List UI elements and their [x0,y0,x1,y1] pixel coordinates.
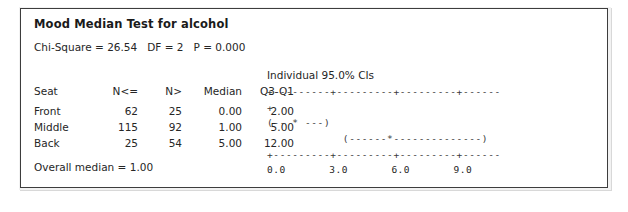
page-title: Mood Median Test for alcohol [34,17,229,31]
output-panel: Mood Median Test for alcohol Chi-Square … [20,8,608,188]
column-header-median: Median [182,85,242,105]
table-row: Front 62 25 0.00 2.00 [34,105,294,121]
ci-axis-bottom: +---------+---------+---------+------ [267,149,501,160]
column-header-seat: Seat [34,85,96,105]
cell-n-le: 25 [96,137,138,153]
ci-interval-front: + [267,102,273,113]
results-table: Seat N<= N> Median Q3-Q1 Front 62 25 0.0… [34,85,294,153]
confidence-interval-plot: Individual 95.0% CIs +---------+--------… [267,69,597,188]
column-header-n-le: N<= [96,85,138,105]
cell-n-gt: 25 [138,105,182,121]
table-row: Back 25 54 5.00 12.00 [34,137,294,153]
cell-n-le: 115 [96,121,138,137]
ci-plot-caption: Individual 95.0% CIs [267,69,374,81]
cell-seat: Middle [34,121,96,137]
table-row: Middle 115 92 1.00 5.00 [34,121,294,137]
cell-n-le: 62 [96,105,138,121]
screenshot-root: Mood Median Test for alcohol Chi-Square … [0,0,628,212]
ci-axis-top: +---------+---------+---------+------ [267,86,501,97]
column-header-n-gt: N> [138,85,182,105]
ci-axis-tick-labels: 0.0 3.0 6.0 9.0 [267,164,472,175]
cell-median: 0.00 [182,105,242,121]
ci-interval-middle: (-- * ---) [267,117,330,128]
cell-n-gt: 92 [138,121,182,137]
output-panel-inner: Mood Median Test for alcohol Chi-Square … [21,9,607,187]
cell-seat: Front [34,105,96,121]
cell-seat: Back [34,137,96,153]
overall-median-text: Overall median = 1.00 [34,161,153,173]
cell-median: 1.00 [182,121,242,137]
ci-interval-back: (------*--------------) [267,133,488,144]
table-header-row: Seat N<= N> Median Q3-Q1 [34,85,294,105]
cell-n-gt: 54 [138,137,182,153]
chi-square-summary: Chi-Square = 26.54 DF = 2 P = 0.000 [34,41,245,53]
cell-median: 5.00 [182,137,242,153]
